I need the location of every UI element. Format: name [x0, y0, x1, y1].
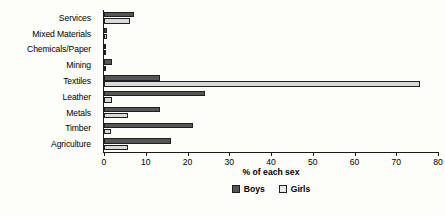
bar-girls [104, 97, 112, 102]
bar-group [104, 73, 438, 89]
x-axis-tick [188, 152, 189, 156]
y-axis-label: Textiles [0, 73, 96, 89]
x-axis-title: % of each sex [104, 167, 438, 177]
bar-boys [104, 59, 112, 64]
y-axis-label: Leather [0, 89, 96, 105]
bar-girls [104, 113, 128, 118]
legend-swatch-icon [232, 185, 240, 193]
x-axis-tick [438, 152, 439, 156]
bar-group [104, 26, 438, 42]
bar-boys [104, 138, 171, 143]
x-axis-tick [271, 152, 272, 156]
legend-item-girls[interactable]: Girls [279, 184, 311, 194]
legend-swatch-icon [279, 185, 287, 193]
x-axis-tick-label: 60 [350, 157, 360, 167]
bar-group [104, 57, 438, 73]
bar-girls [104, 66, 106, 71]
bar-girls [104, 145, 128, 150]
bar-boys [104, 44, 106, 49]
y-axis-category-labels: ServicesMixed MaterialsChemicals/PaperMi… [0, 10, 96, 152]
x-axis-tick-label: 0 [102, 157, 107, 167]
bar-boys [104, 12, 134, 17]
y-axis-label: Agriculture [0, 136, 96, 152]
legend-label: Boys [244, 184, 265, 194]
bar-group [104, 120, 438, 136]
bar-boys [104, 123, 193, 128]
x-axis-tick [146, 152, 147, 156]
bar-group [104, 42, 438, 58]
legend-label: Girls [291, 184, 311, 194]
x-axis-tick-label: 70 [391, 157, 401, 167]
y-axis-label: Mixed Materials [0, 26, 96, 42]
y-axis-label: Chemicals/Paper [0, 42, 96, 58]
bar-girls [104, 129, 111, 134]
plot-area: 01020304050607080 [104, 10, 438, 152]
bar-boys [104, 107, 160, 112]
y-axis-label: Metals [0, 105, 96, 121]
bar-boys [104, 91, 205, 96]
x-axis-tick [355, 152, 356, 156]
x-axis-tick-label: 80 [433, 157, 443, 167]
x-axis-tick [396, 152, 397, 156]
bar-girls [104, 81, 420, 86]
legend-item-boys[interactable]: Boys [232, 184, 265, 194]
y-axis-label: Mining [0, 57, 96, 73]
bar-group [104, 89, 438, 105]
bar-group [104, 136, 438, 152]
bar-group [104, 10, 438, 26]
bar-girls [104, 34, 107, 39]
chart-legend: BoysGirls [104, 184, 438, 194]
bar-boys [104, 75, 160, 80]
x-axis-tick [104, 152, 105, 156]
bar-girls [104, 50, 106, 55]
x-axis-tick [313, 152, 314, 156]
bar-chart: ServicesMixed MaterialsChemicals/PaperMi… [0, 0, 445, 216]
x-axis-tick-label: 20 [183, 157, 193, 167]
bar-group [104, 105, 438, 121]
x-axis-tick-label: 30 [224, 157, 234, 167]
bar-girls [104, 18, 130, 23]
x-axis-tick [229, 152, 230, 156]
bar-boys [104, 28, 107, 33]
x-axis-tick-label: 50 [308, 157, 318, 167]
y-axis-label: Services [0, 10, 96, 26]
x-axis-tick-label: 40 [266, 157, 276, 167]
y-axis-label: Timber [0, 120, 96, 136]
x-axis-tick-label: 10 [141, 157, 151, 167]
